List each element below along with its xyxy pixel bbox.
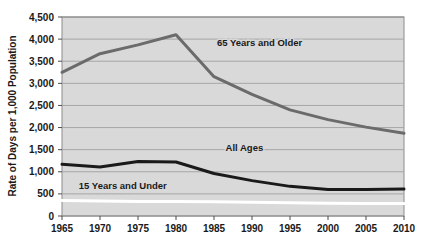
series-label-2: 15 Years and Under	[79, 180, 167, 191]
x-axis-tick-label: 1980	[165, 223, 188, 234]
x-axis-tick-label: 2005	[355, 223, 378, 234]
x-axis-tick-label: 1965	[51, 223, 74, 234]
y-axis-tick-label: 4,000	[29, 34, 54, 45]
series-label-1: All Ages	[226, 142, 264, 153]
y-axis-tick-label: 500	[37, 188, 54, 199]
y-axis-tick-label: 2,000	[29, 122, 54, 133]
y-axis-tick-label: 1,000	[29, 166, 54, 177]
line-chart: 05001,0001,5002,0002,5003,0003,5004,0004…	[0, 0, 424, 244]
x-axis-tick-label: 1970	[89, 223, 112, 234]
x-axis-tick-label: 2000	[317, 223, 340, 234]
x-axis-tick-label: 1985	[203, 223, 226, 234]
y-axis-tick-label: 3,500	[29, 56, 54, 67]
x-axis-tick-label: 1990	[241, 223, 264, 234]
y-axis-tick-label: 0	[48, 211, 54, 222]
series-label-0: 65 Years and Older	[217, 37, 303, 48]
x-axis-tick-label: 2010	[393, 223, 416, 234]
x-axis-tick-label: 1995	[279, 223, 302, 234]
y-axis-tick-label: 4,500	[29, 12, 54, 23]
x-axis-ticks-group: 1965197019751980198519901995200020052010	[51, 216, 416, 234]
y-axis-tick-label: 2,500	[29, 100, 54, 111]
y-axis-tick-label: 1,500	[29, 144, 54, 155]
chart-container: 05001,0001,5002,0002,5003,0003,5004,0004…	[0, 0, 424, 244]
x-axis-tick-label: 1975	[127, 223, 150, 234]
y-axis-title: Rate of Days per 1,000 Population	[7, 35, 18, 196]
y-axis-ticks-group: 05001,0001,5002,0002,5003,0003,5004,0004…	[29, 12, 62, 222]
y-axis-tick-label: 3,000	[29, 78, 54, 89]
